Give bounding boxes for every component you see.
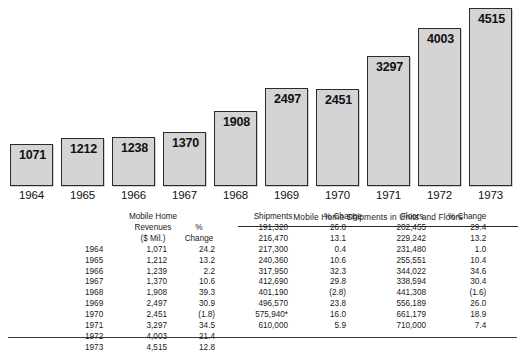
revenues-header-line1: Mobile Home: [123, 212, 183, 223]
axis-year-cell: 1971: [367, 186, 410, 206]
cell-floors-change: 34.6: [448, 267, 486, 278]
table-row: 240,36010.6255,55110.4: [236, 256, 486, 267]
cell-floors-change: 29.4: [448, 223, 486, 234]
cell-shipments: 412,690: [236, 277, 310, 288]
bar-chart: 1071196412121965123819661370196719081968…: [0, 0, 525, 206]
table-row: 19724,00321.4: [85, 332, 215, 343]
revenue-change-header-line2: Change: [183, 234, 215, 245]
axis-year-label: 1973: [469, 189, 512, 201]
table-row: 19713,29734.5: [85, 321, 215, 332]
col-header-revenue-change: % Change: [183, 212, 215, 245]
cell-year: 1973: [85, 343, 123, 354]
cell-shipments: 610,000: [236, 321, 310, 332]
table-row: 217,3000.4231,4801.0: [236, 245, 486, 256]
cell-revenues: 4,003: [123, 332, 183, 343]
cell-year: 1969: [85, 299, 123, 310]
cell-shipments-change: 16.0: [310, 310, 376, 321]
cell-floors: 202,455: [376, 223, 448, 234]
axis-year-cell: 1964: [10, 186, 53, 206]
bar-value-label: 3297: [368, 60, 411, 74]
axis-year-cell: 1969: [265, 186, 308, 206]
bar-value-label: 4003: [419, 32, 462, 46]
table-row: 191,32026.8202,45529.4: [236, 223, 486, 234]
cell-floors: 710,000: [376, 321, 448, 332]
axis-year-cell: 1967: [163, 186, 206, 206]
bar: 1908: [214, 111, 257, 186]
axis-year-cell: 1970: [316, 186, 359, 206]
table-row: 401,190(2.8)441,308(1.6): [236, 288, 486, 299]
cell-year: 1970: [85, 310, 123, 321]
col-header-floors: Floors: [376, 212, 448, 223]
cell-revenues: 2,451: [123, 310, 183, 321]
bar-value-label: 1212: [62, 142, 105, 156]
cell-shipments-change: 5.9: [310, 321, 376, 332]
table-row: 19661,2392.2: [85, 267, 215, 278]
col-header-year: [85, 212, 123, 245]
cell-revenue-change: 21.4: [183, 332, 215, 343]
cell-shipments-change: 23.8: [310, 299, 376, 310]
cell-year: 1972: [85, 332, 123, 343]
revenues-header-line2: Revenues: [123, 223, 183, 234]
axis-year-label: 1969: [265, 189, 308, 201]
cell-floors-change: 1.0: [448, 245, 486, 256]
bar-value-label: 1908: [215, 115, 258, 129]
bar: 1370: [163, 132, 206, 186]
axis-year-cell: 1968: [214, 186, 257, 206]
cell-revenues: 1,370: [123, 277, 183, 288]
cell-shipments-change: 26.8: [310, 223, 376, 234]
cell-revenue-change: 12.8: [183, 343, 215, 354]
cell-floors-change: 13.2: [448, 234, 486, 245]
bar: 1212: [61, 138, 104, 186]
axis-year-cell: 1965: [61, 186, 104, 206]
cell-shipments: 317,950: [236, 267, 310, 278]
cell-year: 1966: [85, 267, 123, 278]
axis-year-cell: 1966: [112, 186, 155, 206]
table-row: 412,69029.8338,59430.4: [236, 277, 486, 288]
table-row: 19681,90839.3: [85, 288, 215, 299]
table-row: 19671,37010.6: [85, 277, 215, 288]
bar-value-label: 2497: [266, 92, 309, 106]
col-header-shipments: Shipments: [236, 212, 310, 223]
col-header-shipments-change: % Change: [310, 212, 376, 223]
axis-year-cell: 1972: [418, 186, 461, 206]
table-row: 216,47013.1229,24213.2: [236, 234, 486, 245]
shipments-table-head: Shipments % Change Floors % Change: [236, 212, 486, 223]
cell-floors: 344,022: [376, 267, 448, 278]
bar-group: 1238: [112, 137, 155, 186]
bar-group: 1212: [61, 138, 104, 186]
axis-year-label: 1971: [367, 189, 410, 201]
cell-shipments-change: 10.6: [310, 256, 376, 267]
cell-floors: 556,189: [376, 299, 448, 310]
col-header-revenues: Mobile Home Revenues ($ Mil.): [123, 212, 183, 245]
cell-floors: 231,480: [376, 245, 448, 256]
cell-shipments: 216,470: [236, 234, 310, 245]
cell-revenues: 1,908: [123, 288, 183, 299]
table-row: 610,0005.9710,0007.4: [236, 321, 486, 332]
cell-revenues: 4,515: [123, 343, 183, 354]
bar-value-label: 2451: [317, 93, 360, 107]
cell-floors-change: 7.4: [448, 321, 486, 332]
bar-group: 1908: [214, 111, 257, 186]
cell-shipments-change: 32.3: [310, 267, 376, 278]
cell-revenue-change: (1.8): [183, 310, 215, 321]
cell-revenues: 3,297: [123, 321, 183, 332]
table-row: 19641,07124.2: [85, 245, 215, 256]
table-row: 19651,21213.2: [85, 256, 215, 267]
cell-year: 1967: [85, 277, 123, 288]
cell-year: 1971: [85, 321, 123, 332]
table-header-row: Mobile Home Revenues ($ Mil.) % Change: [85, 212, 215, 245]
bar-group: 4515: [469, 8, 512, 186]
bar: 4515: [469, 8, 512, 186]
cell-revenues: 1,071: [123, 245, 183, 256]
cell-shipments: 240,360: [236, 256, 310, 267]
table-row: 575,940*16.0661,17918.9: [236, 310, 486, 321]
axis-year-cell: 1973: [469, 186, 512, 206]
cell-floors-change: 10.4: [448, 256, 486, 267]
bar-group: 2451: [316, 89, 359, 186]
axis-year-label: 1965: [61, 189, 104, 201]
cell-shipments-change: 29.8: [310, 277, 376, 288]
cell-floors: 255,551: [376, 256, 448, 267]
cell-year: 1965: [85, 256, 123, 267]
cell-floors-change: 18.9: [448, 310, 486, 321]
col-header-floors-change: % Change: [448, 212, 486, 223]
